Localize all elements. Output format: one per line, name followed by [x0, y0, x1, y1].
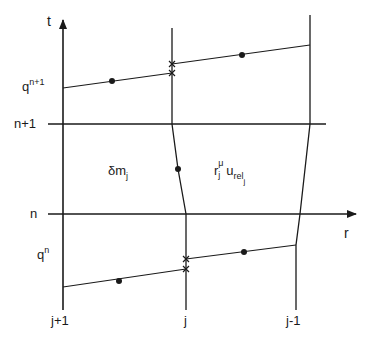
grid-label-j-plus-1: j+1 — [51, 314, 69, 327]
diagram-lines — [0, 0, 374, 346]
flux-u-sub: rel — [234, 171, 244, 181]
node-dot — [241, 249, 247, 255]
node-dot — [109, 78, 115, 84]
time-level-n-label: n — [30, 207, 37, 220]
r-axis-label: r — [344, 226, 349, 240]
time-level-n-plus-1-label: n+1 — [14, 117, 36, 130]
flux-u: u — [226, 163, 233, 178]
node-dot — [116, 278, 122, 284]
flux-r-sup: μ — [218, 159, 223, 168]
flux-upper-sup: n+1 — [29, 77, 44, 87]
flux-line-lower-left — [63, 269, 186, 287]
flux-lower-sup: n — [44, 245, 49, 255]
grid-label-j-minus-1: j-1 — [286, 314, 300, 327]
flux-r-sub: j — [218, 171, 220, 180]
mass-symbol: δm — [108, 163, 126, 178]
t-axis-label: t — [47, 14, 51, 28]
mass-sub: j — [126, 171, 128, 181]
grid-label-j: j — [184, 314, 187, 327]
mass-label: δmj — [108, 164, 128, 177]
space-time-grid-diagram: t r n+1 n qn+1 qn δmj rμjurelj j+1 j j-1 — [0, 0, 374, 346]
node-dot — [175, 166, 181, 172]
flux-r-u-label: rμjurelj — [214, 164, 245, 177]
grid-line-j-minus-1 — [296, 15, 310, 310]
node-dot — [239, 52, 245, 58]
flux-line-upper-left — [63, 73, 172, 88]
flux-label-lower: qn — [37, 248, 49, 261]
flux-label-upper: qn+1 — [22, 80, 45, 93]
